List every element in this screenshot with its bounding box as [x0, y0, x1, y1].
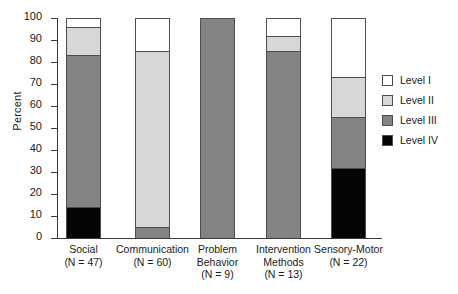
bar-segment-level-iii[interactable]: [266, 51, 301, 238]
x-axis-category-label: Sensory-Motor(N = 22): [297, 243, 401, 268]
legend-swatch-icon: [382, 95, 393, 106]
bar-intervention-methods[interactable]: [266, 18, 301, 238]
legend-item[interactable]: Level III: [382, 110, 438, 130]
bar-segment-level-iii[interactable]: [135, 227, 170, 238]
bar-segment-level-ii[interactable]: [135, 51, 170, 227]
y-tick-label: 60: [30, 98, 42, 110]
bar-segment-level-iii[interactable]: [66, 55, 101, 207]
legend-label: Level III: [400, 114, 437, 126]
legend-label: Level IV: [400, 134, 438, 146]
legend-item[interactable]: Level IV: [382, 130, 438, 150]
legend-swatch-icon: [382, 135, 393, 146]
y-tick-label: 70: [30, 76, 42, 88]
bar-communication[interactable]: [135, 18, 170, 238]
legend-swatch-icon: [382, 115, 393, 126]
legend-swatch-icon: [382, 75, 393, 86]
bar-social[interactable]: [66, 18, 101, 238]
bar-segment-level-iv[interactable]: [331, 168, 366, 238]
category-sample-size: (N = 22): [297, 256, 401, 269]
legend: Level ILevel IILevel IIILevel IV: [382, 70, 438, 150]
bar-segment-level-iii[interactable]: [331, 117, 366, 168]
bar-segment-level-ii[interactable]: [266, 36, 301, 51]
y-tick-label: 30: [30, 164, 42, 176]
legend-label: Level I: [400, 74, 431, 86]
legend-item[interactable]: Level I: [382, 70, 438, 90]
category-sample-size: (N = 13): [232, 268, 336, 281]
y-tick-label: 90: [30, 32, 42, 44]
legend-label: Level II: [400, 94, 434, 106]
category-name: Sensory-Motor: [297, 243, 401, 256]
bar-segment-level-iv[interactable]: [66, 207, 101, 238]
bar-segment-level-i[interactable]: [135, 18, 170, 51]
bar-segment-level-iii[interactable]: [200, 18, 235, 238]
y-tick-label: 50: [30, 120, 42, 132]
y-tick-mark: [51, 238, 57, 239]
y-tick-label: 10: [30, 208, 42, 220]
y-tick-label: 20: [30, 186, 42, 198]
bar-segment-level-i[interactable]: [266, 18, 301, 36]
y-tick-label: 100: [24, 10, 42, 22]
y-axis-label: Percent: [11, 71, 23, 151]
y-tick-label: 40: [30, 142, 42, 154]
bar-problem-behavior[interactable]: [200, 18, 235, 238]
bar-segment-level-ii[interactable]: [331, 77, 366, 117]
legend-item[interactable]: Level II: [382, 90, 438, 110]
y-tick-label: 0: [36, 230, 42, 242]
bar-segment-level-i[interactable]: [331, 18, 366, 77]
bar-segment-level-i[interactable]: [66, 18, 101, 27]
bar-segment-level-ii[interactable]: [66, 27, 101, 56]
bar-sensory-motor[interactable]: [331, 18, 366, 238]
stacked-bar-chart: Percent 1009080706050403020100 Social(N …: [0, 0, 458, 294]
plot-area: [57, 18, 380, 238]
y-tick-label: 80: [30, 54, 42, 66]
